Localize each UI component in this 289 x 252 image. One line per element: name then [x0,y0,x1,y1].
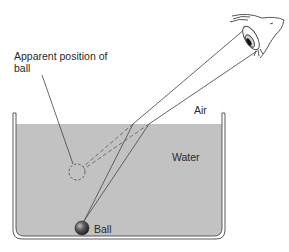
refraction-diagram: Apparent position of ball Air Water Ball [0,0,289,252]
ball-label: Ball [94,223,112,235]
ball-icon [75,221,89,235]
air-label: Air [194,104,207,116]
water-region [16,124,222,236]
apparent-position-label: Apparent position of ball [14,50,124,74]
water-label: Water [172,151,200,163]
